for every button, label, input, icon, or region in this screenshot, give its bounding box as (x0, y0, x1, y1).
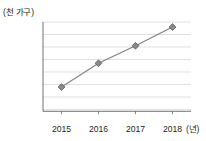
axis-frame (43, 22, 191, 122)
x-axis-tick-label: 2017 (126, 125, 145, 134)
x-axis-tick-label: 2015 (52, 125, 71, 134)
plot-area (43, 22, 191, 122)
y-axis-tick-labels: 4,7004,6504,6004,5504,5004,4504,4004,350… (0, 0, 40, 141)
x-axis-tick-label: 2018 (163, 125, 182, 134)
line-chart: (천 가구) (년) 4,7004,6504,6004,5504,5004,45… (0, 0, 206, 141)
x-axis-tick-label: 2016 (89, 125, 108, 134)
x-axis-tick-labels: 2015201620172018 (43, 125, 191, 137)
